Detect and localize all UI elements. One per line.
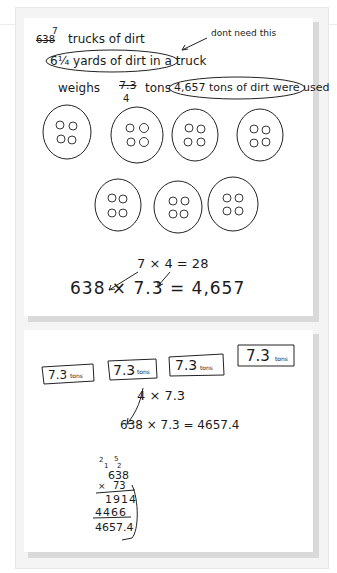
- groups-row-2: [95, 177, 258, 233]
- box-2-unit: tons: [137, 368, 150, 375]
- box-2-value: 7.3: [113, 362, 135, 378]
- box-3-value: 7.3: [175, 357, 197, 373]
- arrow-to-73: [158, 272, 170, 286]
- box-4-value: 7.3: [246, 347, 270, 365]
- worksheet-panel-top: 7 638 trucks of dirt dont need this 6¼ y…: [24, 18, 313, 316]
- circle-yards: [46, 50, 178, 72]
- box-1-unit: tons: [70, 372, 83, 379]
- partial-product-2: 4466: [95, 506, 127, 519]
- box-3-unit: tons: [200, 364, 213, 371]
- multiplier: 73: [113, 480, 126, 491]
- circle-total: [169, 77, 305, 99]
- box-4-unit: tons: [275, 355, 288, 362]
- worksheet-panel-bottom: 7.3 tons 7.3 tons 7.3 tons 7.3 tons 4 × …: [24, 330, 313, 552]
- equation-four-times: 4 × 7.3: [137, 388, 185, 403]
- panel-top-drawings: [24, 18, 313, 316]
- final-product: 4657.4: [95, 521, 134, 534]
- equation-main-bottom: 638 × 7.3 = 4657.4: [120, 418, 239, 432]
- partial-product-1: 1914: [105, 493, 137, 506]
- groups-row-1: [43, 105, 283, 163]
- carry-top-1: 2: [99, 456, 103, 464]
- annotation-arrow: [182, 38, 207, 50]
- times-sign: ×: [98, 481, 106, 491]
- arrow-to-638: [109, 272, 138, 290]
- box-1-value: 7.3: [48, 368, 67, 382]
